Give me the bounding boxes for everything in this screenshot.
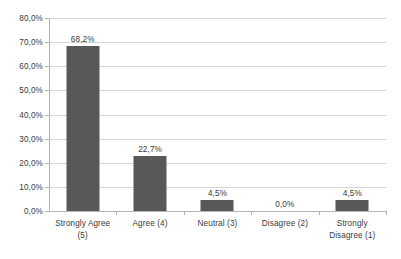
x-axis-category-label: Agree (4) (116, 218, 183, 230)
x-axis-category-line: Strongly (319, 218, 386, 230)
bar-series: 68,2%22,7%4,5%0,0%4,5% (49, 18, 386, 211)
y-axis-tickmark (45, 66, 49, 67)
bar-slot: 4,5% (184, 18, 251, 211)
x-axis-category-line: Strongly Agree (49, 218, 116, 230)
bar-value-label: 0,0% (275, 200, 294, 209)
x-axis-tickmark (251, 211, 252, 215)
bar-value-label: 4,5% (343, 189, 362, 198)
x-axis-category-line: Disagree (2) (251, 218, 318, 230)
y-axis-tickmark (45, 90, 49, 91)
x-axis-category-line: Disagree (1) (319, 230, 386, 242)
y-axis-tickmark (45, 211, 49, 212)
axis-baseline (49, 211, 386, 212)
y-axis-tickmark (45, 42, 49, 43)
y-axis-tick-label: 40,0% (19, 110, 43, 119)
x-axis-labels: Strongly Agree(5)Agree (4)Neutral (3)Dis… (49, 218, 386, 258)
x-axis-category-line: Agree (4) (116, 218, 183, 230)
x-axis-tickmark (386, 211, 387, 215)
bar[interactable] (134, 156, 167, 211)
y-axis-tickmark (45, 139, 49, 140)
y-axis-tickmark (45, 187, 49, 188)
y-axis-labels: 0,0%10,0%20,0%30,0%40,0%50,0%60,0%70,0%8… (0, 0, 46, 259)
x-axis-category-line: (5) (49, 230, 116, 242)
bar-value-label: 68,2% (71, 35, 95, 44)
y-axis-tick-label: 30,0% (19, 134, 43, 143)
bar[interactable] (201, 200, 234, 211)
x-axis-category-label: Strongly Agree(5) (49, 218, 116, 241)
y-axis-tick-label: 80,0% (19, 14, 43, 23)
y-axis-tick-label: 70,0% (19, 38, 43, 47)
bar-value-label: 4,5% (208, 189, 227, 198)
x-axis-category-label: Disagree (2) (251, 218, 318, 230)
bar[interactable] (66, 46, 99, 211)
bar-slot: 22,7% (116, 18, 183, 211)
y-axis-tickmark (45, 163, 49, 164)
x-axis-tickmark (184, 211, 185, 215)
bar-slot: 0,0% (251, 18, 318, 211)
bar-slot: 4,5% (319, 18, 386, 211)
y-axis-tick-label: 0,0% (24, 207, 43, 216)
x-axis-tickmark (116, 211, 117, 215)
bar-chart: 0,0%10,0%20,0%30,0%40,0%50,0%60,0%70,0%8… (0, 0, 401, 259)
y-axis-tick-label: 50,0% (19, 86, 43, 95)
x-axis-category-label: StronglyDisagree (1) (319, 218, 386, 241)
y-axis-tick-label: 10,0% (19, 182, 43, 191)
y-axis-tickmark (45, 115, 49, 116)
y-axis-tickmark (45, 18, 49, 19)
y-axis-tick-label: 20,0% (19, 158, 43, 167)
x-axis-category-line: Neutral (3) (184, 218, 251, 230)
x-axis-category-label: Neutral (3) (184, 218, 251, 230)
y-axis-tick-label: 60,0% (19, 62, 43, 71)
bar[interactable] (336, 200, 369, 211)
bar-slot: 68,2% (49, 18, 116, 211)
x-axis-tickmark (319, 211, 320, 215)
bar-value-label: 22,7% (138, 145, 162, 154)
